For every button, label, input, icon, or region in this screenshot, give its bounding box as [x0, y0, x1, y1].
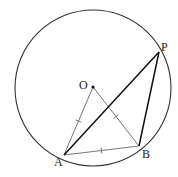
segment-BP [139, 52, 159, 146]
segments [64, 52, 159, 155]
label-O: O [79, 78, 88, 92]
label-B: B [142, 147, 150, 161]
tick-mark-OB [114, 115, 119, 119]
equal-length-ticks [76, 115, 119, 154]
segment-AP [64, 52, 159, 155]
label-A: A [54, 155, 63, 169]
label-P: P [161, 40, 168, 54]
tick-mark-AB [101, 148, 102, 154]
geometry-diagram: O A B P [0, 0, 178, 177]
center-point-O [91, 85, 94, 88]
